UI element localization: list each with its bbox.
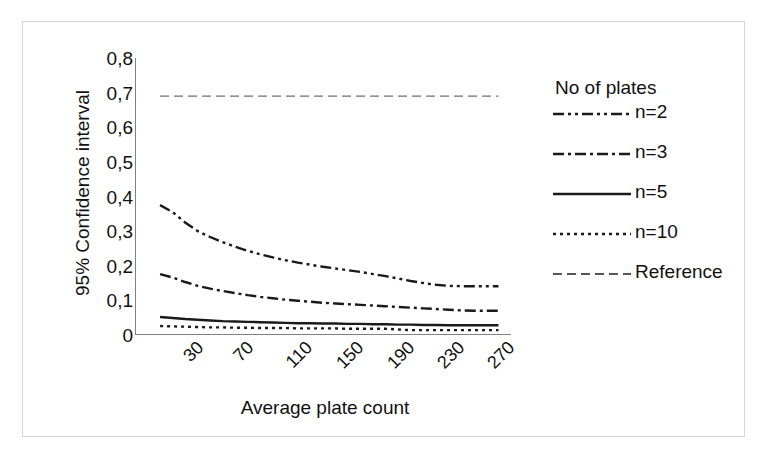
series-line-n-2: [160, 205, 498, 286]
data-series-group: [160, 96, 498, 330]
axis-ticks: [135, 59, 499, 336]
x-tick-label: 270: [484, 338, 518, 372]
y-axis-tick-labels: 00,10,20,30,40,50,60,70,8: [83, 46, 133, 318]
x-tick-label: 110: [283, 338, 316, 371]
x-tick-label: 30: [180, 338, 207, 365]
x-axis-title: Average plate count: [135, 397, 515, 419]
legend-entry[interactable]: n=2: [553, 101, 753, 127]
legend-label: n=2: [635, 101, 667, 123]
plot-svg: [135, 58, 511, 335]
legend-entry[interactable]: Reference: [553, 261, 753, 287]
legend-entry[interactable]: n=5: [553, 181, 753, 207]
series-line-n-10: [160, 326, 498, 330]
chart-legend: No of plates n=2n=3n=5n=10Reference: [553, 77, 753, 307]
y-tick-label: 0,6: [83, 118, 133, 137]
y-tick-label: 0,8: [83, 49, 133, 68]
x-tick-label: 230: [434, 338, 468, 372]
legend-label: n=10: [635, 221, 678, 243]
series-line-n-3: [160, 274, 498, 311]
y-tick-label: 0: [83, 326, 133, 345]
x-tick-label: 190: [383, 338, 417, 372]
x-axis-tick-labels: 3070110150190230270: [135, 338, 535, 398]
chart-figure: 95% Confidence interval 00,10,20,30,40,5…: [0, 0, 768, 461]
legend-swatch-n-3: [553, 147, 631, 161]
chart-frame: 95% Confidence interval 00,10,20,30,40,5…: [22, 21, 745, 437]
y-tick-label: 0,7: [83, 84, 133, 103]
axis-lines: [135, 58, 511, 335]
legend-swatch-n-5: [553, 187, 631, 201]
x-tick-label: 70: [230, 338, 257, 365]
y-tick-label: 0,1: [83, 291, 133, 310]
legend-title: No of plates: [555, 77, 656, 99]
y-tick-label: 0,3: [83, 222, 133, 241]
plot-area: [135, 58, 511, 335]
series-line-n-5: [160, 317, 498, 325]
legend-label: Reference: [635, 261, 723, 283]
legend-entry[interactable]: n=3: [553, 141, 753, 167]
y-tick-label: 0,2: [83, 257, 133, 276]
y-tick-label: 0,5: [83, 153, 133, 172]
legend-swatch-n-2: [553, 107, 631, 121]
y-tick-label: 0,4: [83, 188, 133, 207]
legend-label: n=3: [635, 141, 667, 163]
legend-entry[interactable]: n=10: [553, 221, 753, 247]
legend-swatch-n-10: [553, 227, 631, 241]
legend-swatch-reference: [553, 267, 631, 281]
x-tick-label: 150: [333, 338, 367, 372]
legend-label: n=5: [635, 181, 667, 203]
